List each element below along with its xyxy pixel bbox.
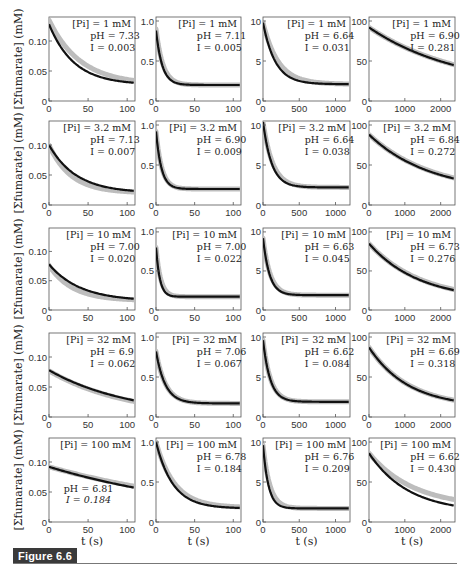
y-tick-label: 0.10: [29, 36, 48, 47]
y-tick-label: 50: [356, 56, 367, 67]
ionic-strength-annotation: I = 0.020: [90, 253, 135, 264]
ionic-strength-annotation: I = 0.272: [410, 146, 455, 157]
pi-annotation: [Pi] = 1 mM: [392, 18, 451, 29]
y-tick-label: 0.05: [29, 275, 48, 286]
pi-annotation: [Pi] = 3.2 mM: [383, 122, 451, 133]
x-tick-label: 500: [291, 103, 307, 114]
pi-annotation: [Pi] = 1 mM: [178, 18, 237, 29]
x-axis-label: t (s): [295, 535, 317, 548]
y-tick-label: 1.0: [141, 16, 154, 27]
x-axis-label: t (s): [401, 535, 423, 548]
x-tick-label: 1000: [325, 524, 346, 535]
pi-annotation: [Pi] = 100 mM: [275, 439, 346, 450]
ph-annotation: pH = 6.64: [305, 30, 355, 41]
ph-annotation: pH = 6.78: [197, 451, 247, 462]
pi-annotation: [Pi] = 10 mM: [66, 229, 131, 240]
ph-annotation: pH = 6.62: [410, 451, 460, 462]
x-tick-label: 50: [83, 312, 94, 323]
x-tick-label: 0: [260, 103, 265, 114]
y-tick-label: 5: [256, 56, 261, 67]
x-tick-label: 0: [366, 312, 371, 323]
x-tick-label: 100: [119, 312, 135, 323]
x-tick-label: 50: [189, 103, 200, 114]
x-tick-label: 2000: [430, 419, 451, 430]
ionic-strength-annotation: I = 0.430: [410, 463, 455, 474]
ionic-strength-annotation: I = 0.007: [90, 146, 135, 157]
x-tick-label: 50: [189, 207, 200, 218]
y-tick-label: 10: [250, 437, 261, 448]
ph-annotation: pH = 6.73: [410, 241, 460, 252]
x-tick-label: 0: [260, 524, 265, 535]
pi-annotation: [Pi] = 32 mM: [386, 334, 451, 345]
ph-annotation: pH = 6.84: [410, 134, 460, 145]
pi-annotation: [Pi] = 100 mM: [380, 439, 451, 450]
y-tick-label: 100: [351, 437, 367, 448]
pi-annotation: [Pi] = 10 mM: [172, 229, 237, 240]
y-axis-label: [Σfumarate] (mM): [12, 429, 25, 530]
x-tick-label: 50: [83, 524, 94, 535]
x-tick-label: 1000: [394, 312, 415, 323]
y-tick-label: 10: [250, 16, 261, 27]
ionic-strength-annotation: I = 0.062: [90, 358, 135, 369]
y-tick-label: 1.0: [141, 332, 154, 343]
x-tick-label: 0: [46, 524, 51, 535]
x-tick-label: 100: [225, 312, 241, 323]
ionic-strength-annotation: I = 0.038: [305, 146, 350, 157]
x-tick-label: 50: [83, 103, 94, 114]
y-tick-label: 0.5: [141, 265, 154, 276]
y-tick-label: 0.5: [141, 56, 154, 67]
y-tick-label: 100: [351, 16, 367, 27]
ph-annotation: pH = 6.90: [197, 134, 247, 145]
ionic-strength-annotation: I = 0.022: [197, 253, 242, 264]
pi-annotation: [Pi] = 32 mM: [281, 334, 346, 345]
y-tick-label: 50: [356, 372, 367, 383]
x-axis-label: t (s): [81, 535, 103, 548]
x-tick-label: 0: [260, 312, 265, 323]
pi-annotation: [Pi] = 100 mM: [166, 439, 237, 450]
x-tick-label: 50: [189, 419, 200, 430]
ionic-strength-annotation: I = 0.009: [197, 146, 242, 157]
x-tick-label: 0: [46, 312, 51, 323]
x-tick-label: 0: [153, 312, 158, 323]
y-tick-label: 1.0: [141, 437, 154, 448]
figure-label: Figure 6.6: [13, 548, 77, 564]
x-tick-label: 0: [366, 207, 371, 218]
ionic-strength-annotation: I = 0.003: [90, 42, 135, 53]
ph-annotation: pH = 6.90: [410, 30, 460, 41]
x-axis-label: t (s): [187, 535, 209, 548]
y-tick-label: 0.05: [29, 382, 48, 393]
x-tick-label: 1000: [325, 419, 346, 430]
y-tick-label: 0.10: [29, 457, 48, 468]
x-tick-label: 50: [83, 207, 94, 218]
x-tick-label: 50: [83, 419, 94, 430]
x-tick-label: 0: [153, 524, 158, 535]
x-tick-label: 0: [153, 419, 158, 430]
ionic-strength-annotation: I = 0.209: [305, 463, 350, 474]
ionic-strength-annotation: I = 0.184: [65, 494, 111, 505]
y-tick-label: 5: [256, 372, 261, 383]
y-axis-label: [Σfumarate] (mM): [12, 112, 25, 213]
y-tick-label: 0.5: [141, 372, 154, 383]
y-tick-label: 5: [256, 265, 261, 276]
y-axis-label: [Σfumarate] (mM): [12, 218, 25, 319]
y-tick-label: 100: [351, 332, 367, 343]
ph-annotation: pH = 6.62: [305, 346, 355, 357]
y-tick-label: 0.10: [29, 352, 48, 363]
y-tick-label: 0.10: [29, 140, 48, 151]
pi-annotation: [Pi] = 3.2 mM: [63, 122, 131, 133]
x-tick-label: 1000: [325, 207, 346, 218]
x-tick-label: 500: [291, 524, 307, 535]
y-tick-label: 10: [250, 120, 261, 131]
x-tick-label: 0: [46, 419, 51, 430]
ph-annotation: pH = 6.63: [305, 241, 355, 252]
ph-annotation: pH = 6.9: [90, 346, 133, 357]
ph-annotation: pH = 6.81: [64, 483, 114, 494]
ph-annotation: pH = 7.11: [197, 30, 247, 41]
y-tick-label: 1.0: [141, 226, 154, 237]
y-axis-label: [Σfumarate] (mM): [12, 324, 25, 425]
y-tick-label: 0.5: [141, 160, 154, 171]
y-tick-label: 5: [256, 160, 261, 171]
ph-annotation: pH = 7.06: [197, 346, 247, 357]
y-tick-label: 0.05: [29, 487, 48, 498]
y-tick-label: 100: [351, 226, 367, 237]
